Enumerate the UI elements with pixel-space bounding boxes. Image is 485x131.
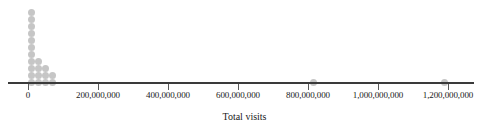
data-dot bbox=[28, 37, 35, 44]
data-dot bbox=[28, 23, 35, 30]
plot-area bbox=[0, 0, 485, 84]
x-axis-tick-label: 1,200,000,000 bbox=[423, 90, 473, 100]
data-dot bbox=[28, 65, 35, 72]
x-axis-tick-label: 600,000,000 bbox=[216, 90, 260, 100]
data-dot bbox=[28, 51, 35, 58]
dotplot-figure: 0200,000,000400,000,000600,000,000800,00… bbox=[0, 0, 485, 131]
x-axis-tick-label: 0 bbox=[26, 90, 30, 100]
data-dot bbox=[35, 72, 42, 79]
x-axis-title: Total visits bbox=[0, 111, 485, 122]
x-axis-tick-label: 800,000,000 bbox=[286, 90, 330, 100]
x-axis-title-text: Total visits bbox=[222, 111, 266, 122]
data-dot bbox=[28, 16, 35, 23]
data-dot bbox=[28, 30, 35, 37]
data-dot bbox=[28, 44, 35, 51]
x-axis-line bbox=[8, 82, 474, 84]
x-axis-tick-label: 200,000,000 bbox=[76, 90, 120, 100]
data-dot bbox=[28, 72, 35, 79]
data-dot bbox=[35, 65, 42, 72]
data-dot bbox=[28, 9, 35, 16]
data-dot bbox=[35, 58, 42, 65]
data-dot bbox=[42, 72, 49, 79]
x-axis-tick-label: 400,000,000 bbox=[146, 90, 190, 100]
data-dot bbox=[28, 58, 35, 65]
data-dot bbox=[42, 65, 49, 72]
data-dot bbox=[49, 72, 56, 79]
x-axis-tick-label: 1,000,000,000 bbox=[353, 90, 403, 100]
